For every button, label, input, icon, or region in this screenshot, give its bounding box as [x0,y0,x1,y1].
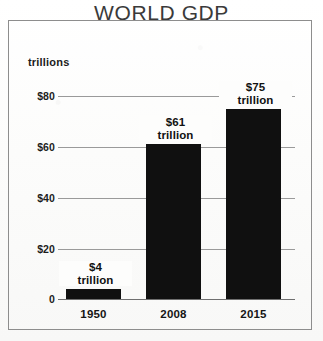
y-tick-label-20: $20 [15,243,55,255]
y-tick-label-40: $40 [15,192,55,204]
bar-value-unit-1950: trillion [61,274,130,287]
x-category-label-1950: 1950 [66,308,121,320]
x-axis-baseline [58,299,295,300]
bar-2008 [146,144,201,299]
x-category-label-2015: 2015 [226,308,281,320]
y-tick-label-80: $80 [15,90,55,102]
bar-value-label-2008: $61 trillion [139,116,212,141]
bar-2015 [226,109,281,299]
y-axis-unit-label: trillions [28,56,70,68]
bar-value-label-1950: $4 trillion [59,261,132,286]
y-tick-label-0: 0 [15,293,55,305]
bar-value-amount-1950: $4 [61,261,130,274]
bar-value-unit-2015: trillion [221,94,290,107]
page-title: WORLD GDP [0,1,323,25]
bar-value-amount-2015: $75 [221,81,290,94]
bar-1950 [66,289,121,299]
world-gdp-chart-figure: WORLD GDP trillions $80 $60 $40 $20 0 $4… [0,0,323,341]
x-category-label-2008: 2008 [146,308,201,320]
y-tick-label-60: $60 [15,141,55,153]
bar-value-amount-2008: $61 [141,116,210,129]
bar-value-label-2015: $75 trillion [219,81,292,106]
bar-value-unit-2008: trillion [141,129,210,142]
plot-area: trillions $80 $60 $40 $20 0 $4 trillion … [0,0,323,341]
